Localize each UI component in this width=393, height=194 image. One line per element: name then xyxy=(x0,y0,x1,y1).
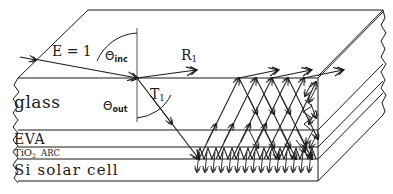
torn-edge-right xyxy=(381,10,386,115)
reflected-symbol: R xyxy=(181,47,192,63)
tio2-formula-main: TiO xyxy=(14,147,32,158)
reflected-ray-1 xyxy=(137,70,196,78)
layer-label-eva: EVA xyxy=(14,131,45,147)
ray-label-incident: E = 1 xyxy=(52,43,92,59)
ray-label-reflected-1: R1 xyxy=(181,47,197,64)
reflected-index: 1 xyxy=(192,54,198,64)
incident-ray-tail xyxy=(20,57,36,60)
edge-scatter-rays xyxy=(296,82,317,156)
block-right-face xyxy=(318,12,383,181)
layer-label-tio2-arc: TiO2ARC xyxy=(14,147,60,159)
escaping-rays xyxy=(239,70,343,78)
arc-abbreviation: ARC xyxy=(41,148,60,158)
sawtooth-texture xyxy=(196,148,316,159)
theta-out-subscript: out xyxy=(112,105,127,114)
angle-label-theta-out: Θout xyxy=(103,99,127,114)
transmitted-symbol: T xyxy=(150,86,159,102)
transmitted-index: 1 xyxy=(159,93,165,103)
solar-cell-ray-diagram: glass EVA TiO2ARC Si solar cell E = 1 R1… xyxy=(0,0,393,194)
layer-label-si-solar-cell: Si solar cell xyxy=(14,161,119,179)
ray-label-transmitted-1: T1 xyxy=(150,86,165,103)
layer-label-glass: glass xyxy=(14,92,60,112)
internal-wavy-feature xyxy=(303,100,312,130)
theta-inc-subscript: inc xyxy=(114,55,127,64)
tio2-formula-subscript: 2 xyxy=(32,152,36,159)
angle-label-theta-inc: Θinc xyxy=(105,49,128,64)
